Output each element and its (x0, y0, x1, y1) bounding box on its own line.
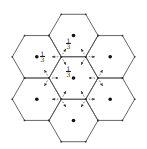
vertex-dot (134, 56, 136, 58)
fraction-denominator: 3 (40, 57, 45, 62)
fraction-denominator: 3 (66, 72, 71, 77)
vertex-dot (122, 35, 124, 37)
center-dot-upper-left (35, 55, 39, 59)
arrow (99, 70, 102, 75)
fraction-label: 13 (66, 66, 71, 77)
vertex-dot (85, 13, 87, 15)
center-dot-upper-right (108, 55, 112, 59)
vertex-dot (11, 56, 13, 58)
vertex-dot (60, 98, 62, 100)
fraction-denominator: 3 (66, 44, 71, 49)
vertex-dot (11, 98, 13, 100)
vertex-dot (60, 13, 62, 15)
vertex-dot (24, 35, 26, 37)
arrow (81, 91, 84, 96)
arrow (63, 102, 66, 107)
vertex-dot (97, 77, 99, 79)
center-dot-lower-left (35, 97, 39, 101)
center-dot-bottom (72, 119, 76, 123)
vertex-dot (24, 120, 26, 122)
arrow (81, 49, 84, 54)
arrow (81, 102, 84, 107)
arrow (63, 49, 66, 54)
vertex-dot (60, 56, 62, 58)
hexagon-cell-diagram (0, 0, 147, 149)
arrow (63, 59, 66, 64)
fraction-label: 13 (66, 38, 71, 49)
vertex-dot (97, 120, 99, 122)
vertex-dot (85, 141, 87, 143)
arrow (81, 59, 84, 64)
vertex-dot (85, 98, 87, 100)
arrow (99, 81, 102, 86)
vertex-dot (134, 98, 136, 100)
vertex-dot (85, 56, 87, 58)
center-dot-top (72, 34, 76, 38)
arrow (63, 91, 66, 96)
fraction-label: 13 (40, 51, 45, 62)
arrow (45, 70, 48, 75)
vertex-dot (122, 120, 124, 122)
vertex-dot (48, 35, 50, 37)
arrow (45, 81, 48, 86)
vertex-dot (24, 77, 26, 79)
vertex-dot (122, 77, 124, 79)
center-dot-lower-right (108, 97, 112, 101)
vertex-dot (97, 35, 99, 37)
vertex-dot (60, 141, 62, 143)
vertex-dot (48, 77, 50, 79)
vertex-dot (48, 120, 50, 122)
center-dot-center (72, 76, 76, 80)
